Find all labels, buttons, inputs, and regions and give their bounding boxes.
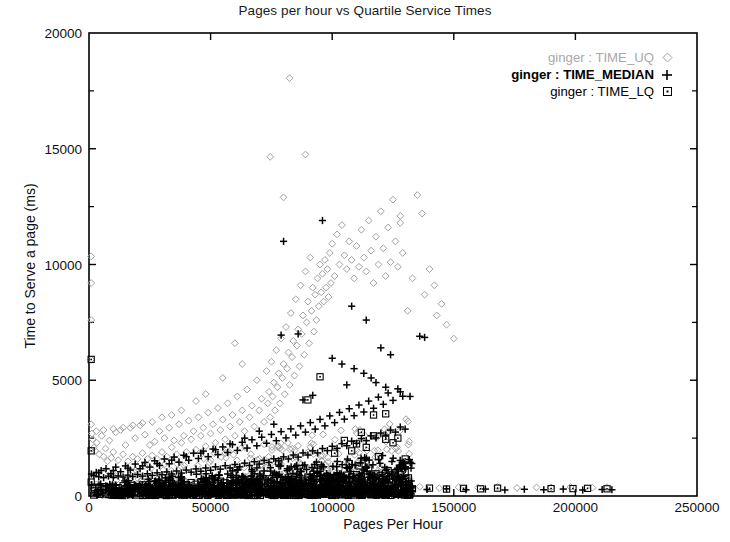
series-diamond <box>88 75 611 499</box>
x-axis-tick-label: 50000 <box>156 500 266 515</box>
y-axis-tick-label: 15000 <box>18 141 82 156</box>
scatter-chart: Pages per hour vs Quartile Service Times… <box>0 0 730 542</box>
x-axis-tick-label: 250000 <box>642 500 730 515</box>
legend-label-time-uq: ginger : TIME_UQ <box>548 50 654 65</box>
legend-item-time-lq: ginger : TIME_LQ <box>390 83 680 100</box>
legend-label-time-median: ginger : TIME_MEDIAN <box>511 67 654 82</box>
legend-label-time-lq: ginger : TIME_LQ <box>550 84 654 99</box>
chart-legend: ginger : TIME_UQ ginger : TIME_MEDIAN gi… <box>390 49 680 100</box>
legend-item-time-median: ginger : TIME_MEDIAN <box>390 66 680 83</box>
y-axis-tick-label: 5000 <box>18 373 82 388</box>
chart-title: Pages per hour vs Quartile Service Times <box>0 3 730 18</box>
x-axis-tick-label: 0 <box>34 500 144 515</box>
x-axis-tick-label: 100000 <box>277 500 387 515</box>
square-marker-icon <box>654 86 680 97</box>
y-axis-tick-label: 10000 <box>18 257 82 272</box>
diamond-marker-icon <box>654 52 680 63</box>
plus-marker-icon <box>654 69 680 81</box>
y-axis-tick-labels: 05000100001500020000 <box>18 0 82 542</box>
legend-item-time-uq: ginger : TIME_UQ <box>390 49 680 66</box>
x-axis-tick-label: 200000 <box>520 500 630 515</box>
x-axis-label: Pages Per Hour <box>89 516 697 532</box>
y-axis-tick-label: 20000 <box>18 26 82 41</box>
series-plus <box>88 217 616 499</box>
x-axis-tick-label: 150000 <box>399 500 509 515</box>
